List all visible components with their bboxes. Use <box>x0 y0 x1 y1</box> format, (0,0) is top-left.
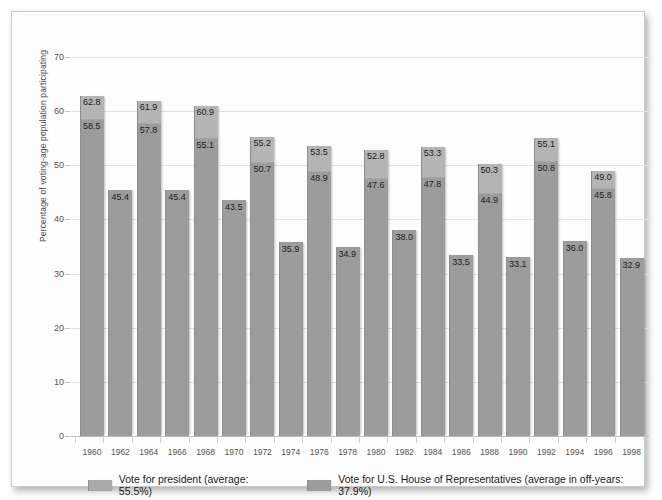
bar-1994[interactable]: 36.0 <box>563 241 587 436</box>
x-tick-mark-1972 <box>245 436 246 443</box>
x-tick-mark-1970 <box>217 436 218 443</box>
legend-label-0: Vote for president (average: 55.5%) <box>119 473 277 497</box>
bar-value-house-1984: 47.8 <box>424 179 442 189</box>
x-tick-label-1990: 1990 <box>501 447 535 457</box>
x-tick-label-1972: 1972 <box>245 447 279 457</box>
bar-1964[interactable]: 61.957.8 <box>137 101 161 436</box>
bar-1970[interactable]: 43.5 <box>222 200 246 436</box>
bar-1980[interactable]: 52.847.6 <box>364 150 388 436</box>
bar-value-house-1966: 45.4 <box>168 192 186 202</box>
x-tick-label-1992: 1992 <box>529 447 563 457</box>
bar-president-segment-1976 <box>308 146 331 172</box>
legend-entry-0[interactable]: Vote for president (average: 55.5%) <box>88 473 276 497</box>
x-tick-mark-1966 <box>160 436 161 443</box>
bar-value-president-1992: 55.1 <box>537 139 555 149</box>
bar-value-president-1988: 50.3 <box>481 165 499 175</box>
plot-area: 010203040506070 62.858.5196045.4196261.9… <box>71 57 649 436</box>
x-tick-mark-1988 <box>473 436 474 443</box>
bar-president-segment-1972 <box>251 137 274 162</box>
bar-value-president-1972: 55.2 <box>253 138 271 148</box>
bar-value-house-1982: 38.0 <box>395 232 413 242</box>
x-tick-mark-1976 <box>302 436 303 443</box>
x-tick-mark-1984 <box>416 436 417 443</box>
x-tick-label-1996: 1996 <box>586 447 620 457</box>
x-tick-mark-1996 <box>586 436 587 443</box>
bar-1982[interactable]: 38.0 <box>392 230 416 436</box>
bar-1974[interactable]: 35.9 <box>279 242 303 436</box>
bar-1976[interactable]: 53.548.9 <box>307 146 331 436</box>
bar-value-house-1994: 36.0 <box>566 243 584 253</box>
y-tick-mark-70 <box>65 57 70 58</box>
bar-1998[interactable]: 32.9 <box>620 258 644 436</box>
bar-value-president-1980: 52.8 <box>367 151 385 161</box>
bar-president-segment-1992 <box>535 138 558 162</box>
x-tick-label-1978: 1978 <box>331 447 365 457</box>
y-tick-mark-50 <box>65 165 70 166</box>
bar-1968[interactable]: 60.955.1 <box>194 106 218 436</box>
gridline-60 <box>71 111 649 112</box>
y-tick-mark-20 <box>65 328 70 329</box>
chart-card: Percentage of voting-age population part… <box>11 11 645 487</box>
y-tick-mark-10 <box>65 382 70 383</box>
bar-value-president-1964: 61.9 <box>140 102 158 112</box>
bar-value-house-1964: 57.8 <box>140 125 158 135</box>
bar-president-segment-1980 <box>365 150 388 179</box>
x-tick-label-1970: 1970 <box>217 447 251 457</box>
bar-1962[interactable]: 45.4 <box>108 190 132 436</box>
x-tick-mark-1962 <box>103 436 104 443</box>
bar-value-house-1972: 50.7 <box>253 164 271 174</box>
bar-1960[interactable]: 62.858.5 <box>80 96 104 436</box>
x-tick-label-1976: 1976 <box>302 447 336 457</box>
x-tick-label-1968: 1968 <box>189 447 223 457</box>
gridline-50 <box>71 165 649 166</box>
bar-president-segment-1968 <box>195 106 218 138</box>
x-tick-label-1988: 1988 <box>473 447 507 457</box>
y-tick-label-20: 20 <box>54 323 64 333</box>
bar-1996[interactable]: 49.045.8 <box>591 171 615 436</box>
bar-1990[interactable]: 33.1 <box>506 257 530 436</box>
bar-value-house-1992: 50.8 <box>537 163 555 173</box>
bar-value-house-1988: 44.9 <box>481 195 499 205</box>
bar-value-president-1984: 53.3 <box>424 148 442 158</box>
x-tick-mark-1992 <box>529 436 530 443</box>
bar-1972[interactable]: 55.250.7 <box>250 137 274 436</box>
y-tick-label-50: 50 <box>54 160 64 170</box>
x-tick-mark-1998 <box>615 436 616 443</box>
chart-page: Percentage of voting-age population part… <box>0 0 662 500</box>
x-tick-mark-1980 <box>359 436 360 443</box>
y-tick-label-40: 40 <box>54 214 64 224</box>
bar-value-house-1970: 43.5 <box>225 202 243 212</box>
y-axis-label: Percentage of voting-age population part… <box>38 50 48 242</box>
bar-group: 62.858.5196045.4196261.957.8196445.41966… <box>71 57 649 436</box>
bar-value-house-1996: 45.8 <box>594 190 612 200</box>
bar-1986[interactable]: 33.5 <box>449 255 473 436</box>
bar-1984[interactable]: 53.347.8 <box>421 147 445 436</box>
bar-value-house-1998: 32.9 <box>623 260 641 270</box>
legend-label-1: Vote for U.S. House of Representatives (… <box>338 473 644 497</box>
x-tick-mark-1964 <box>132 436 133 443</box>
bar-1966[interactable]: 45.4 <box>165 190 189 436</box>
x-tick-label-1986: 1986 <box>444 447 478 457</box>
chart-legend: Vote for president (average: 55.5%)Vote … <box>88 473 644 497</box>
y-tick-label-30: 30 <box>54 269 64 279</box>
bar-president-segment-1964 <box>138 101 161 124</box>
x-tick-label-1980: 1980 <box>359 447 393 457</box>
bar-1992[interactable]: 55.150.8 <box>534 138 558 436</box>
legend-swatch-0 <box>88 480 112 491</box>
bar-value-house-1980: 47.6 <box>367 180 385 190</box>
bar-president-segment-1996 <box>592 171 615 189</box>
gridline-40 <box>71 219 649 220</box>
gridline-70 <box>71 57 649 58</box>
x-tick-label-1960: 1960 <box>75 447 109 457</box>
x-tick-mark-1978 <box>331 436 332 443</box>
x-tick-label-1974: 1974 <box>274 447 308 457</box>
x-tick-label-1994: 1994 <box>558 447 592 457</box>
x-tick-label-1998: 1998 <box>615 447 649 457</box>
y-tick-mark-40 <box>65 219 70 220</box>
legend-entry-1[interactable]: Vote for U.S. House of Representatives (… <box>307 473 644 497</box>
bar-1988[interactable]: 50.344.9 <box>478 164 502 436</box>
bar-value-president-1968: 60.9 <box>197 107 215 117</box>
bar-value-president-1976: 53.5 <box>310 147 328 157</box>
bar-value-house-1990: 33.1 <box>509 259 527 269</box>
bar-1978[interactable]: 34.9 <box>336 247 360 436</box>
